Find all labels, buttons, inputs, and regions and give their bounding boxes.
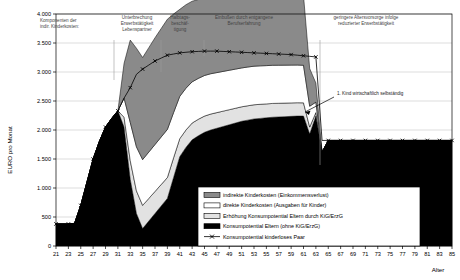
legend-label: indirekte Kinderkosten (Einkommensverlus… <box>223 192 329 198</box>
x-tick-label: 45 <box>201 251 207 257</box>
x-tick-label: 41 <box>177 251 183 257</box>
x-axis-ticks: 2123252729313335373941434547495153555759… <box>53 246 455 257</box>
x-tick-label: 51 <box>239 251 245 257</box>
x-tick-label: 37 <box>152 251 158 257</box>
annotation-line: Erwerbstätigkeit <box>121 21 154 26</box>
legend-swatch <box>204 193 220 198</box>
x-tick-label: 77 <box>399 251 405 257</box>
x-tick-label: 75 <box>387 251 393 257</box>
x-tick-label: 33 <box>127 251 133 257</box>
legend-swatch <box>204 213 220 218</box>
x-tick-label: 57 <box>276 251 282 257</box>
callout-text: 1. Kind wirtschaftlich selbständig <box>337 91 404 96</box>
y-axis-label: EURO pro Monat <box>6 126 13 174</box>
annotation-a4: geringere Altersvorsorge infolgereduzier… <box>334 15 399 26</box>
x-tick-label: 55 <box>263 251 269 257</box>
annotation-line: Halbtags- <box>170 15 190 20</box>
x-tick-label: 49 <box>226 251 232 257</box>
x-tick-label: 69 <box>350 251 356 257</box>
y-tick-label: 500 <box>42 214 51 220</box>
y-tick-label: 2.000 <box>37 127 51 133</box>
x-tick-label: 31 <box>115 251 121 257</box>
legend-item: indirekte Kinderkosten (Einkommensverlus… <box>204 192 329 198</box>
annotation-line: indir. Kinderkosten: <box>40 24 79 29</box>
x-tick-label: 73 <box>375 251 381 257</box>
x-tick-label: 43 <box>189 251 195 257</box>
annotation-line: reduzierter Erwerbstätigkeit <box>338 21 395 26</box>
legend-label: Konsumpotential Eltern (ohne KiG/ErzG) <box>223 223 320 229</box>
x-axis-label: Alter <box>432 266 445 273</box>
indirect-child-costs-area-chart: 05001.0001.5002.0002.5003.0003.5004.000 … <box>0 0 460 280</box>
y-tick-label: 3.500 <box>37 40 51 46</box>
legend-label: Erhöhung Konsumpotential Eltern durch Ki… <box>223 213 343 219</box>
x-tick-label: 61 <box>300 251 306 257</box>
x-tick-label: 63 <box>313 251 319 257</box>
y-tick-label: 0 <box>48 243 51 249</box>
x-tick-label: 35 <box>140 251 146 257</box>
legend-swatch <box>204 224 220 229</box>
annotation-a1: UnterbrechungErwerbstätigkeitLebenspartn… <box>121 15 154 32</box>
annotation-line: geringere Altersvorsorge infolge <box>334 15 399 20</box>
x-tick-label: 21 <box>53 251 59 257</box>
x-tick-label: 53 <box>251 251 257 257</box>
annotation-line: beschäf- <box>171 21 189 26</box>
x-tick-label: 47 <box>214 251 220 257</box>
x-tick-label: 59 <box>288 251 294 257</box>
legend-swatch <box>204 203 220 208</box>
legend: indirekte Kinderkosten (Einkommensverlus… <box>198 187 420 246</box>
x-tick-label: 83 <box>437 251 443 257</box>
x-tick-label: 81 <box>424 251 430 257</box>
x-tick-label: 29 <box>102 251 108 257</box>
x-tick-label: 39 <box>164 251 170 257</box>
x-tick-label: 85 <box>449 251 455 257</box>
x-tick-label: 67 <box>338 251 344 257</box>
annotation-line: Lebenspartner <box>122 27 152 32</box>
y-tick-label: 1.500 <box>37 156 51 162</box>
annotation-line: Komponenten der <box>40 18 77 23</box>
x-tick-label: 25 <box>78 251 84 257</box>
annotation-a0: Komponenten derindir. Kinderkosten: <box>40 18 79 29</box>
chart-root: 05001.0001.5002.0002.5003.0003.5004.000 … <box>0 0 460 280</box>
y-tick-label: 3.000 <box>37 69 51 75</box>
legend-label: direkte Kinderkosten (Ausgaben für Kinde… <box>223 202 327 208</box>
x-tick-label: 79 <box>412 251 418 257</box>
legend-item: direkte Kinderkosten (Ausgaben für Kinde… <box>204 202 327 208</box>
annotation-line: Unterbrechung <box>122 15 153 20</box>
x-tick-label: 27 <box>90 251 96 257</box>
x-tick-label: 71 <box>362 251 368 257</box>
annotation-line: Einbußen durch entgangene <box>215 15 273 20</box>
y-tick-label: 1.000 <box>37 185 51 191</box>
x-tick-label: 23 <box>65 251 71 257</box>
annotation-line: tigung <box>174 27 187 32</box>
y-tick-label: 2.500 <box>37 98 51 104</box>
y-axis-ticks: 05001.0001.5002.0002.5003.0003.5004.000 <box>37 11 56 249</box>
y-tick-label: 4.000 <box>37 11 51 17</box>
annotation-line: Berufserfahrung <box>228 21 261 26</box>
legend-item: Erhöhung Konsumpotential Eltern durch Ki… <box>204 213 343 219</box>
x-tick-label: 65 <box>325 251 331 257</box>
legend-label: Konsumpotential kinderloses Paar <box>223 234 305 240</box>
